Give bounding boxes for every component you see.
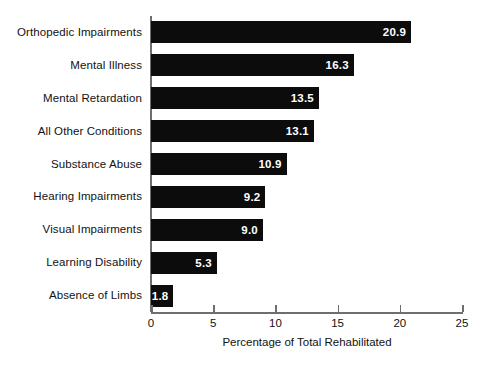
bar: 13.1 [151,120,314,142]
x-axis-tick [338,305,340,312]
category-label: Substance Abuse [51,158,142,171]
x-axis-tick [462,305,464,312]
bar-value-label: 1.8 [152,290,169,302]
x-axis-tick-label: 5 [210,316,216,330]
bar: 16.3 [151,54,354,76]
category-label: Mental Retardation [43,92,142,105]
bar-value-label: 13.5 [291,92,314,104]
bar-value-label: 9.2 [244,191,261,203]
x-axis-tick-label: 10 [269,316,282,330]
bar-value-label: 13.1 [286,125,309,137]
bar-value-label: 20.9 [383,26,406,38]
bar: 9.2 [151,186,265,208]
x-axis-tick [400,305,402,312]
bar: 13.5 [151,87,319,109]
bar: 20.9 [151,21,411,43]
plot-area: 20.916.313.513.110.99.29.05.31.8 [151,16,462,312]
bar: 1.8 [151,285,173,307]
category-label: All Other Conditions [38,125,142,138]
bar: 9.0 [151,219,263,241]
category-label: Learning Disability [46,256,142,269]
bar-value-label: 5.3 [195,257,212,269]
bar-value-label: 16.3 [326,59,349,71]
bar: 5.3 [151,252,217,274]
x-axis-tick-label: 0 [148,316,154,330]
x-axis-tick-label: 15 [331,316,344,330]
x-axis-tick-label: 20 [393,316,406,330]
x-axis-tick [151,305,153,312]
x-axis-tick-label: 25 [456,316,469,330]
category-label: Mental Illness [70,59,142,72]
category-label: Hearing Impairments [33,190,142,203]
category-axis-labels: Orthopedic ImpairmentsMental IllnessMent… [0,0,147,367]
bar: 10.9 [151,153,287,175]
x-axis-tick [213,305,215,312]
category-label: Orthopedic Impairments [17,26,142,39]
category-label: Absence of Limbs [49,289,142,302]
category-label: Visual Impairments [43,223,142,236]
x-axis-line [151,312,463,314]
bar-value-label: 10.9 [258,158,281,170]
bar-value-label: 9.0 [241,224,258,236]
x-axis-tick [275,305,277,312]
bar-chart: Orthopedic ImpairmentsMental IllnessMent… [0,0,490,367]
x-axis-title: Percentage of Total Rehabilitated [151,335,463,349]
